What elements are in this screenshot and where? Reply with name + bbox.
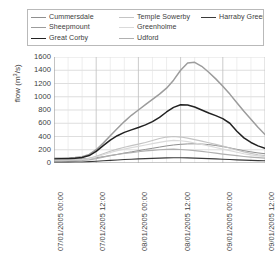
legend-line-swatch-icon [31, 38, 46, 39]
line-chart-svg [54, 57, 265, 163]
legend-item-great-corby[interactable]: Great Corby [31, 34, 119, 43]
legend-item-label: Udford [137, 34, 159, 43]
legend-line-swatch-icon [119, 38, 134, 39]
legend-item-harraby-green[interactable]: Harraby Green [201, 13, 263, 22]
y-axis-label-exponent: 3 [12, 73, 18, 76]
legend-item-udford[interactable]: Udford [119, 34, 201, 43]
plot-area [54, 57, 265, 163]
y-tick-label: 1400 [34, 66, 51, 74]
chart-legend: CummersdaleTemple SowerbyHarraby GreenSh… [27, 9, 264, 46]
legend-line-swatch-icon [31, 27, 46, 28]
x-tick-label: 08/01/2005 12:00 [184, 192, 192, 251]
y-tick-label: 1200 [34, 80, 51, 88]
legend-line-swatch-icon [119, 27, 134, 28]
legend-item-sheepmount[interactable]: Sheepmount [31, 23, 119, 32]
legend-item-label: Harraby Green [219, 13, 263, 22]
legend-item-label: Cummersdale [49, 13, 94, 22]
flow-hydrograph-figure: CummersdaleTemple SowerbyHarraby GreenSh… [0, 0, 279, 260]
y-tick-label: 0 [47, 159, 51, 167]
legend-item-label: Sheepmount [49, 23, 90, 32]
legend-item-greenholme[interactable]: Greenholme [119, 23, 201, 32]
x-tick-label: 08/01/2005 00:00 [141, 192, 149, 251]
y-tick-label: 1000 [34, 93, 51, 101]
y-tick-label: 600 [38, 119, 51, 127]
legend-line-swatch-icon [119, 17, 134, 18]
x-tick-label: 07/01/2005 00:00 [57, 192, 65, 251]
legend-line-swatch-icon [201, 17, 216, 18]
legend-item-cummersdale[interactable]: Cummersdale [31, 13, 119, 22]
legend-item-label: Temple Sowerby [137, 13, 190, 22]
y-tick-label: 200 [38, 146, 51, 154]
x-tick-label: 09/01/2005 12:00 [268, 192, 276, 251]
y-tick-label: 1600 [34, 53, 51, 61]
legend-item-label: Greenholme [137, 23, 177, 32]
legend-line-swatch-icon [31, 17, 46, 18]
legend-grid: CummersdaleTemple SowerbyHarraby GreenSh… [31, 12, 260, 44]
y-tick-label: 400 [38, 133, 51, 141]
x-tick-label: 09/01/2005 00:00 [226, 192, 234, 251]
x-tick-label: 07/01/2005 12:00 [99, 192, 107, 251]
legend-item-temple-sowerby[interactable]: Temple Sowerby [119, 13, 201, 22]
x-axis-ticks: 07/01/2005 00:0007/01/2005 12:0008/01/20… [54, 165, 265, 257]
y-axis-ticks: 16001400120010008006004002000 [20, 57, 51, 163]
legend-item-label: Great Corby [49, 34, 88, 43]
y-tick-label: 800 [38, 106, 51, 114]
